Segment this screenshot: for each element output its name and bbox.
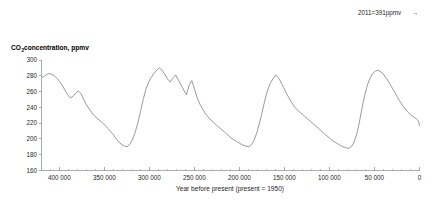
y-axis-title: CO 2 concentration, ppmv: [11, 44, 89, 53]
x-axis-title: Year before present (present = 1950): [176, 185, 284, 193]
x-axis: 400 000350 000300 000250 000200 000150 0…: [42, 167, 422, 181]
y-axis: 300280260240220200180160: [26, 56, 41, 174]
x-axis-tick-label: 250 000: [183, 174, 206, 181]
y-axis-tick-label: 280: [26, 72, 37, 79]
y-axis-tick-label: 200: [26, 135, 37, 142]
x-axis-tick-label: 350 000: [93, 174, 116, 181]
y-axis-tick-label: 180: [26, 151, 37, 158]
chart-figure: CO 2 concentration, ppmv 300280260240220…: [0, 0, 433, 202]
x-axis-tick-label: 50 000: [365, 174, 385, 181]
y-axis-tick-label: 220: [26, 119, 37, 126]
x-axis-tick-label: 200 000: [228, 174, 251, 181]
y-axis-tick-label: 160: [26, 167, 37, 174]
chart-canvas: CO 2 concentration, ppmv 300280260240220…: [0, 0, 433, 202]
y-axis-tick-label: 240: [26, 104, 37, 111]
x-axis-tick-label: 150 000: [273, 174, 296, 181]
modern-co2-annotation: 2011=391ppmv →: [358, 9, 418, 17]
annotation-label: 2011=391ppmv: [358, 9, 402, 17]
y-axis-tick-label: 300: [26, 56, 37, 63]
annotation-arrow-icon: →: [412, 9, 418, 16]
co2-concentration-line: [42, 68, 419, 149]
x-axis-tick-label: 100 000: [318, 174, 341, 181]
y-axis-tick-label: 260: [26, 88, 37, 95]
y-axis-title-main: CO: [11, 44, 21, 51]
x-axis-tick-label: 300 000: [138, 174, 161, 181]
y-axis-tick-labels: 300280260240220200180160: [26, 56, 37, 174]
x-axis-tick-label: 400 000: [48, 174, 71, 181]
y-axis-title-rest: concentration, ppmv: [24, 44, 89, 52]
x-axis-tick-label: 0: [418, 174, 422, 181]
data-series-group: [42, 68, 419, 149]
x-axis-tick-labels: 400 000350 000300 000250 000200 000150 0…: [48, 174, 422, 181]
